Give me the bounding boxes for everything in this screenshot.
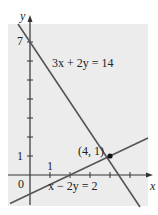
chart: y x 7 1 1 0 3x + 2y = 14 x − 2y = 2 (4, … [0,0,158,215]
x-axis-arrow-icon [146,173,153,178]
y-axis-arrow-icon [28,15,33,22]
x-tick-label-1: 1 [47,159,53,173]
point-label: (4, 1) [78,144,104,158]
y-tick-label-1: 1 [17,149,23,163]
equation-label-2: x − 2y = 2 [48,179,98,193]
y-tick-label-7: 7 [17,34,23,48]
origin-label: 0 [18,177,24,191]
equation-label-1: 3x + 2y = 14 [52,56,114,70]
intersection-point [107,153,112,158]
y-axis-label: y [19,9,26,23]
x-axis-label: x [149,179,156,193]
